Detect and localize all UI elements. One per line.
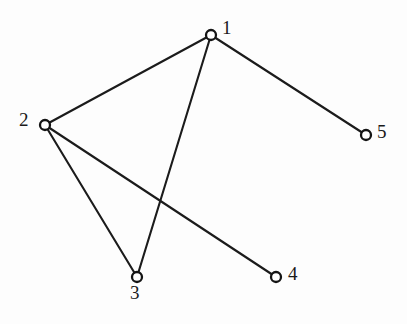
graph-node-2: [40, 120, 50, 130]
graph-edge-2-4: [45, 125, 276, 277]
node-label-4: 4: [288, 264, 298, 283]
graph-node-3: [132, 272, 142, 282]
graph-edge-1-5: [211, 35, 366, 135]
node-label-3: 3: [130, 283, 140, 302]
node-label-5: 5: [377, 122, 387, 141]
graph-node-1: [206, 30, 216, 40]
graph-edge-1-3: [137, 35, 211, 277]
graph-node-5: [361, 130, 371, 140]
graph-canvas: [0, 0, 407, 324]
graph-node-4: [271, 272, 281, 282]
node-label-1: 1: [222, 18, 232, 37]
graph-edge-1-2: [45, 35, 211, 125]
graph-edge-2-3: [45, 125, 137, 277]
node-label-2: 2: [19, 110, 29, 129]
edges-group: [45, 35, 366, 277]
graph-diagram: 12345: [0, 0, 407, 324]
nodes-group: [40, 30, 371, 282]
